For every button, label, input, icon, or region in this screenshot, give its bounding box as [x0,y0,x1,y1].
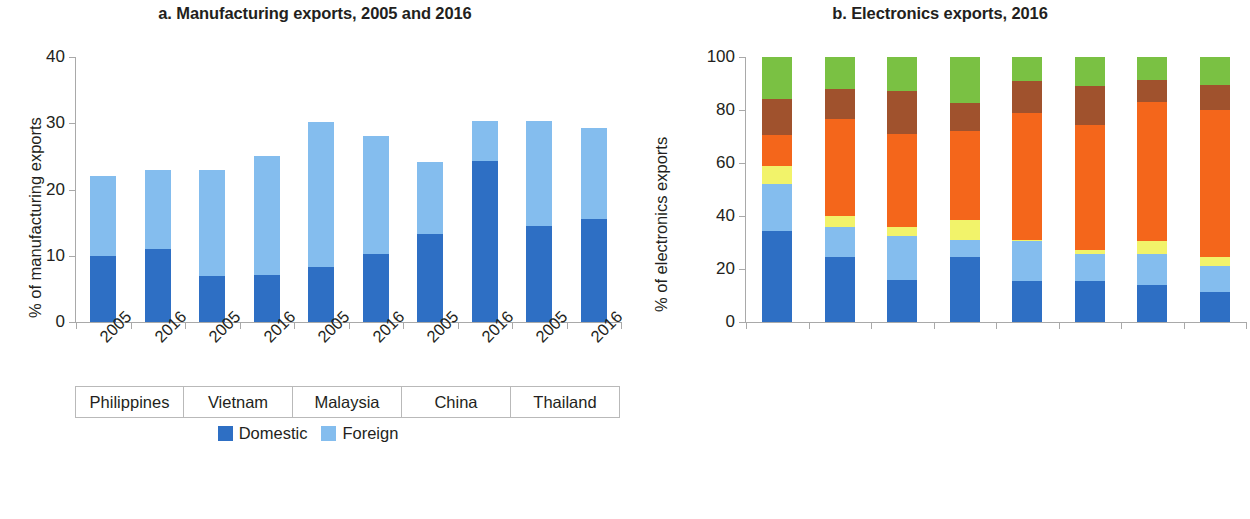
legend-swatch-icon [218,426,233,441]
panel-a-bar-segment [472,121,498,161]
panel-b-bar-segment [1075,57,1105,86]
panel-b-bar-segment [1012,81,1042,113]
panel-b-x-tick [746,322,747,329]
panel-b-bar [1012,57,1042,322]
panel-b-bar-segment [762,231,792,322]
panel-a-legend-label: Foreign [342,424,398,443]
panel-b-bar [1200,57,1230,322]
panel-b-bar-segment [1012,281,1042,322]
panel-b-bar [762,57,792,322]
panel-b-bar-segment [825,216,855,227]
panel-b-bar-segment [825,257,855,322]
panel-a-bar-segment [145,170,171,250]
panel-a-bar-segment [254,156,280,275]
panel-b-x-tick [1121,322,1122,329]
panel-b-bar-segment [950,57,980,103]
panel-b-bar-segment [950,103,980,131]
panel-b-bar-segment [950,131,980,220]
panel-b-bar [887,57,917,322]
panel-b-bar-segment [762,184,792,230]
panel-a-y-tick [69,190,76,191]
panel-b-bar [950,57,980,322]
panel-a-y-tick-label: 20 [46,180,65,200]
panel-a-bar-segment [472,161,498,322]
panel-b-bar-segment [1137,285,1167,322]
panel-b-bar-segment [1075,86,1105,124]
panel-a-bar [254,57,280,322]
panel-b-x-tick [1059,322,1060,329]
panel-b-bar [825,57,855,322]
panel-b-title: b. Electronics exports, 2016 [630,4,1250,23]
panel-b-bar-segment [1012,57,1042,81]
panel-a-y-tick [69,322,76,323]
panel-a-legend: DomesticForeign [0,424,630,443]
panel-b-x-tick [934,322,935,329]
panel-b-bar-segment [825,89,855,119]
panel-b-x-tick [871,322,872,329]
panel-b-bar-segment [1200,85,1230,110]
panel-b-bar [1137,57,1167,322]
panel-b-bar-segment [1075,254,1105,281]
panel-b-y-tick-label: 40 [716,206,735,226]
panel-b-y-tick-label: 20 [716,259,735,279]
panel-b-bar-segment [887,227,917,236]
panel-a-bar-segment [363,254,389,322]
panel-a-bar-segment [90,176,116,256]
panel-a-bar-segment [254,275,280,322]
panel-a-legend-item[interactable]: Foreign [321,424,398,443]
panel-a-bar [417,57,443,322]
panel-a-x-tick [76,322,77,329]
panel-b-y-tick-label: 60 [716,153,735,173]
panel-a-bar-segment [308,267,334,322]
panel-a-group-label: Malaysia [293,387,402,417]
panel-b-bar-segment [825,57,855,89]
panel-a-bar [199,57,225,322]
panel-a-plot-area: 010203040 [75,57,621,323]
panel-a-bar-segment [526,121,552,226]
panel-a-bar-segment [417,162,443,234]
panel-a-y-tick [69,123,76,124]
panel-b-bar-segment [1075,125,1105,251]
panel-b-bar-segment [887,134,917,227]
panel-b-x-tick [996,322,997,329]
panel-a-bar [308,57,334,322]
panel-b-y-tick-label: 100 [707,47,735,67]
panel-a-bar-segment [581,219,607,322]
panel-a-bar [581,57,607,322]
panel-a-bar-segment [90,256,116,322]
panel-b-bar-segment [1137,57,1167,80]
panel-b-y-tick [739,216,746,217]
panel-b-bar-segment [1137,102,1167,241]
panel-a-bar [472,57,498,322]
panel-b-bar-segment [762,99,792,135]
panel-b-bar-segment [1200,292,1230,322]
panel-b-y-tick [739,163,746,164]
panel-a-bar-segment [363,136,389,254]
panel-b-bar-segment [887,91,917,133]
panel-b-x-tick [1246,322,1247,329]
panel-b-y-tick [739,110,746,111]
panel-a-bar-segment [199,170,225,276]
panel-b-bar-segment [762,166,792,185]
panel-a-y-tick [69,256,76,257]
panel-b-x-tick [809,322,810,329]
panel-b-bar-segment [1137,254,1167,284]
panel-a-y-tick [69,57,76,58]
panel-a-bar [526,57,552,322]
panel-b-y-tick [739,322,746,323]
panel-b-bar-segment [1200,266,1230,291]
figure-root: a. Manufacturing exports, 2005 and 2016 … [0,0,1250,519]
panel-b-y-axis-label: % of electronics exports [652,137,671,312]
panel-b-bar-segment [1200,57,1230,85]
panel-b-bar-segment [887,236,917,280]
panel-a-bar-segment [308,122,334,267]
panel-a-title: a. Manufacturing exports, 2005 and 2016 [0,4,630,23]
panel-b-y-tick-label: 80 [716,100,735,120]
panel-b-bar-segment [1012,241,1042,281]
panel-a-bar-segment [417,234,443,322]
panel-a-bar [90,57,116,322]
panel-b-bar-segment [1200,110,1230,257]
panel-a-legend-item[interactable]: Domestic [218,424,308,443]
panel-a-y-axis-label: % of manufacturing exports [26,117,45,318]
panel-a-group-label: China [402,387,511,417]
